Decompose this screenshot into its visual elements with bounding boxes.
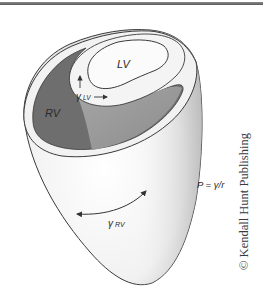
heart-diagram: LV RV γ LV γ RV P = γ/r — [0, 0, 263, 305]
gamma-lv-subscript: LV — [83, 94, 91, 101]
lv-label: LV — [117, 58, 132, 70]
rv-label: RV — [45, 107, 62, 119]
copyright-notice: © Kendall Hunt Publishing — [237, 133, 252, 270]
pressure-equation: P = γ/r — [197, 179, 225, 190]
gamma-rv-subscript: RV — [115, 221, 126, 228]
